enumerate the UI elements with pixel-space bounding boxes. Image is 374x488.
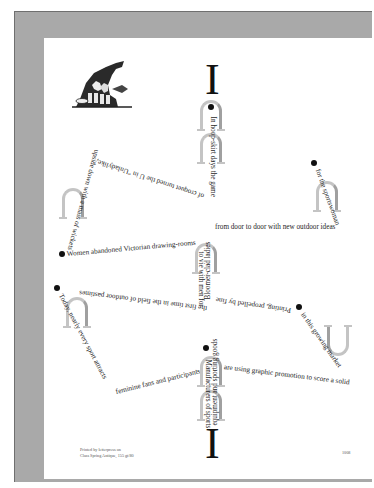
text-croquet: of croquet turned the U in "Unladylike," xyxy=(93,156,205,199)
text-manufacturers: Manufacturers of sports xyxy=(203,360,210,429)
text-printing: Printing, propelled by fine xyxy=(215,295,291,313)
bullet-dot xyxy=(203,345,209,351)
text-women-abandoned: Women abandoned Victorian drawing-rooms xyxy=(67,240,196,258)
bottom-letter-i: I xyxy=(205,422,220,466)
text-hoop-skirt: In hoop-skirt days the game xyxy=(208,117,215,197)
text-vie-with-men: to vie with men for xyxy=(196,252,203,307)
text-first-time: the first time in the field of outdoor p… xyxy=(79,288,207,311)
text-graphic-promotion: are using graphic promotion to score a s… xyxy=(224,364,350,387)
text-feminine-fans: feminine fans and participants xyxy=(115,368,201,396)
bullet-dot xyxy=(311,160,317,166)
page-mark: 1008 xyxy=(342,450,350,456)
text-door-to-door: from door to door with new outdoor ideas xyxy=(215,224,335,231)
text-equipment: equipment and sporting goods xyxy=(212,339,219,426)
bullet-dot xyxy=(208,104,214,110)
bullet-dot xyxy=(59,251,65,257)
colophon: Printed by letterpress on Class Spring A… xyxy=(80,447,134,458)
text-bloomer: Bloomer-clad ladies xyxy=(205,242,212,300)
bullet-dot xyxy=(296,304,302,310)
woodcut-illustration-icon xyxy=(72,59,132,109)
colophon-line-2: Class Spring Antique, 155 gt/80 xyxy=(80,453,134,459)
typographic-poster-page: I In hoop-skirt days the game of croquet… xyxy=(44,38,374,479)
bullet-dot xyxy=(54,285,60,291)
top-letter-i: I xyxy=(205,58,220,102)
gray-mat-frame: I In hoop-skirt days the game of croquet… xyxy=(14,11,372,482)
